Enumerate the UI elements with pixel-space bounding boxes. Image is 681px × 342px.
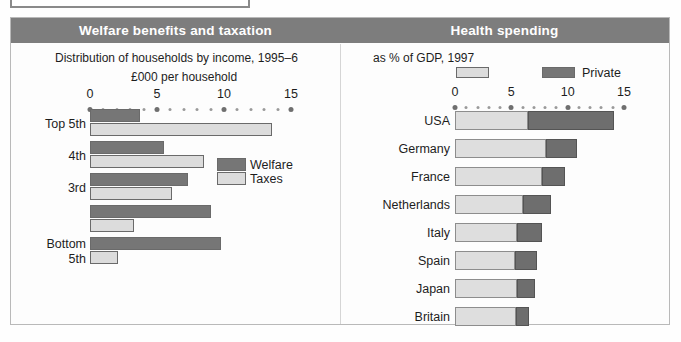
left-bar-taxes bbox=[90, 123, 272, 136]
left-bar-welfare bbox=[90, 173, 188, 186]
axis-minor-dot bbox=[209, 108, 212, 111]
panel-title-health: Health spending bbox=[340, 18, 669, 43]
left-bar-welfare bbox=[90, 141, 164, 154]
panel-welfare: Distribution of households by income, 19… bbox=[11, 43, 340, 324]
right-chart-subtitle: as % of GDP, 1997 bbox=[373, 51, 474, 65]
right-bar-segment-public bbox=[455, 195, 523, 214]
left-bar-welfare bbox=[90, 205, 211, 218]
left-category-label: 4th bbox=[69, 149, 86, 163]
axis-tick-label: 10 bbox=[217, 87, 231, 101]
axis-minor-dot bbox=[555, 106, 558, 109]
right-bar-segment-public bbox=[455, 111, 528, 130]
left-bar-taxes bbox=[90, 219, 134, 232]
right-bar-segment-private bbox=[515, 251, 538, 270]
left-legend-swatch bbox=[217, 158, 246, 171]
left-category-label: Top 5th bbox=[45, 117, 86, 131]
left-bar-taxes bbox=[90, 251, 118, 264]
axis-minor-dot bbox=[249, 108, 252, 111]
axis-major-dot bbox=[155, 107, 160, 112]
axis-major-dot bbox=[222, 107, 227, 112]
axis-minor-dot bbox=[499, 106, 502, 109]
axis-minor-dot bbox=[544, 106, 547, 109]
axis-tick-label: 5 bbox=[154, 87, 161, 101]
right-bar-segment-public bbox=[455, 139, 546, 158]
axis-tick-label: 5 bbox=[508, 85, 515, 99]
left-chart-subtitle: Distribution of households by income, 19… bbox=[55, 51, 298, 65]
right-legend-swatch bbox=[456, 67, 489, 78]
right-bar-segment-private bbox=[517, 223, 542, 242]
axis-minor-dot bbox=[589, 106, 592, 109]
left-category-label: Bottom5th bbox=[46, 237, 86, 267]
right-category-label: Britain bbox=[415, 310, 450, 324]
axis-tick-label: 15 bbox=[617, 85, 631, 99]
axis-minor-dot bbox=[169, 108, 172, 111]
axis-minor-dot bbox=[142, 108, 145, 111]
axis-minor-dot bbox=[465, 106, 468, 109]
right-bar-segment-private bbox=[546, 139, 576, 158]
left-bar-welfare bbox=[90, 237, 221, 250]
left-bar-taxes bbox=[90, 155, 204, 168]
axis-minor-dot bbox=[532, 106, 535, 109]
left-axis-unit-label: £000 per household bbox=[131, 70, 237, 84]
axis-tick-label: 0 bbox=[452, 85, 459, 99]
right-bar-segment-public bbox=[455, 307, 516, 326]
right-category-label: France bbox=[411, 170, 450, 184]
axis-major-dot bbox=[565, 105, 570, 110]
right-bar-segment-public bbox=[455, 223, 517, 242]
left-legend-swatch bbox=[217, 172, 246, 185]
right-category-label: Italy bbox=[427, 226, 450, 240]
right-category-label: Netherlands bbox=[383, 198, 450, 212]
right-bar-segment-public bbox=[455, 251, 515, 270]
axis-minor-dot bbox=[276, 108, 279, 111]
right-bar-segment-private bbox=[542, 167, 566, 186]
axis-minor-dot bbox=[182, 108, 185, 111]
panel-title-welfare: Welfare benefits and taxation bbox=[11, 18, 340, 43]
axis-tick-label: 0 bbox=[87, 87, 94, 101]
right-bar-segment-public bbox=[455, 279, 517, 298]
left-bar-taxes bbox=[90, 187, 172, 200]
axis-minor-dot bbox=[577, 106, 580, 109]
right-category-label: Germany bbox=[399, 142, 450, 156]
left-legend-label: Welfare bbox=[250, 158, 293, 172]
figure-page: Welfare benefits and taxation Health spe… bbox=[0, 0, 681, 342]
right-bar-segment-private bbox=[517, 279, 535, 298]
right-category-label: Japan bbox=[416, 282, 450, 296]
right-bar-segment-private bbox=[523, 195, 551, 214]
left-bar-welfare bbox=[90, 109, 140, 122]
axis-tick-label: 15 bbox=[284, 87, 298, 101]
right-category-label: Spain bbox=[418, 254, 450, 268]
right-legend-label: Private bbox=[582, 66, 621, 80]
axis-tick-label: 10 bbox=[561, 85, 575, 99]
axis-minor-dot bbox=[611, 106, 614, 109]
axis-minor-dot bbox=[196, 108, 199, 111]
title-band: Welfare benefits and taxation Health spe… bbox=[11, 18, 669, 43]
cropped-box-fragment bbox=[10, 0, 250, 8]
axis-minor-dot bbox=[600, 106, 603, 109]
left-category-label: 3rd bbox=[68, 181, 86, 195]
right-category-label: USA bbox=[424, 114, 450, 128]
axis-major-dot bbox=[453, 105, 458, 110]
axis-major-dot bbox=[509, 105, 514, 110]
axis-minor-dot bbox=[487, 106, 490, 109]
axis-minor-dot bbox=[476, 106, 479, 109]
axis-minor-dot bbox=[236, 108, 239, 111]
axis-major-dot bbox=[622, 105, 627, 110]
right-bar-segment-private bbox=[516, 307, 530, 326]
axis-minor-dot bbox=[263, 108, 266, 111]
axis-major-dot bbox=[289, 107, 294, 112]
right-bar-segment-private bbox=[528, 111, 614, 130]
right-legend-swatch bbox=[542, 67, 575, 78]
left-legend-label: Taxes bbox=[250, 172, 283, 186]
axis-minor-dot bbox=[521, 106, 524, 109]
right-bar-segment-public bbox=[455, 167, 542, 186]
panel-health: as % of GDP, 1997 Private 051015 USAGerm… bbox=[341, 43, 669, 324]
